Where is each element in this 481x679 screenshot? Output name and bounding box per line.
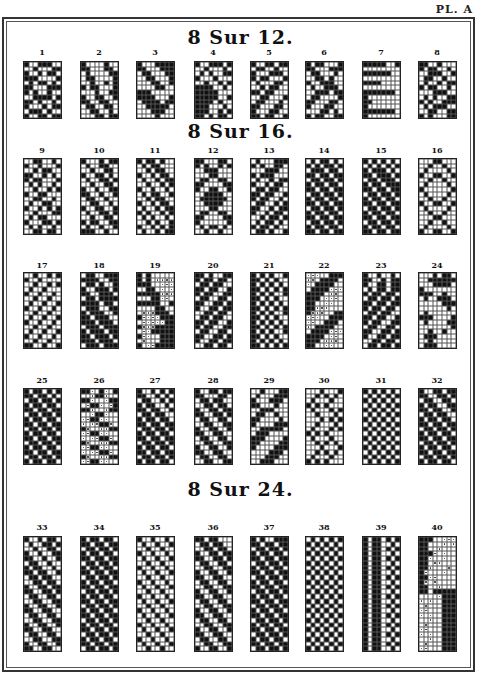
pattern-cell	[395, 343, 400, 348]
pattern-number: 9	[22, 145, 62, 155]
pattern-number: 8	[417, 47, 457, 57]
pattern-cell	[169, 343, 174, 348]
weave-pattern-grid	[418, 536, 457, 652]
weave-pattern-grid	[250, 536, 289, 652]
weave-pattern-grid	[80, 158, 119, 235]
weave-pattern-grid	[23, 158, 62, 235]
pattern-cell	[169, 229, 174, 234]
pattern-cell	[451, 646, 456, 651]
weave-pattern-grid	[194, 158, 233, 235]
pattern-cell	[395, 459, 400, 464]
pattern-number: 40	[417, 522, 457, 532]
weave-pattern-grid	[136, 61, 175, 119]
pattern-number: 7	[361, 47, 401, 57]
pattern-cell	[56, 114, 61, 119]
pattern-number: 31	[361, 375, 401, 385]
weave-pattern-grid	[305, 388, 344, 465]
inner-frame	[6, 21, 471, 668]
pattern-cell	[395, 646, 400, 651]
pattern-cell	[227, 646, 232, 651]
pattern-cell	[56, 343, 61, 348]
pattern-number: 38	[304, 522, 344, 532]
weave-pattern-grid	[362, 158, 401, 235]
pattern-number: 5	[249, 47, 289, 57]
pattern-number: 26	[79, 375, 119, 385]
pattern-cell	[169, 459, 174, 464]
pattern-number: 22	[304, 260, 344, 270]
weave-pattern-grid	[418, 272, 457, 349]
weave-pattern-grid	[80, 388, 119, 465]
weave-pattern-grid	[194, 272, 233, 349]
pattern-number: 35	[135, 522, 175, 532]
pattern-number: 11	[135, 145, 175, 155]
weave-pattern-grid	[305, 158, 344, 235]
pattern-cell	[283, 114, 288, 119]
weave-pattern-grid	[305, 61, 344, 119]
pattern-cell	[451, 229, 456, 234]
pattern-number: 24	[417, 260, 457, 270]
pattern-cell	[227, 343, 232, 348]
weave-pattern-grid	[305, 536, 344, 652]
weave-pattern-grid	[250, 158, 289, 235]
pattern-number: 32	[417, 375, 457, 385]
pattern-number: 30	[304, 375, 344, 385]
weave-pattern-grid	[250, 272, 289, 349]
pattern-cell	[113, 459, 118, 464]
pattern-number: 18	[79, 260, 119, 270]
weave-pattern-grid	[80, 61, 119, 119]
pattern-cell	[451, 459, 456, 464]
pattern-number: 27	[135, 375, 175, 385]
pattern-number: 4	[193, 47, 233, 57]
pattern-cell	[338, 229, 343, 234]
pattern-cell	[451, 114, 456, 119]
pattern-number: 1	[22, 47, 62, 57]
pattern-cell	[283, 646, 288, 651]
pattern-cell	[338, 459, 343, 464]
pattern-cell	[56, 459, 61, 464]
weave-pattern-grid	[194, 61, 233, 119]
weave-pattern-grid	[23, 272, 62, 349]
weave-pattern-grid	[80, 272, 119, 349]
pattern-number: 15	[361, 145, 401, 155]
pattern-cell	[283, 343, 288, 348]
weave-pattern-grid	[23, 388, 62, 465]
weave-pattern-grid	[418, 388, 457, 465]
pattern-cell	[283, 229, 288, 234]
weave-pattern-grid	[250, 388, 289, 465]
pattern-cell	[338, 114, 343, 119]
pattern-cell	[451, 343, 456, 348]
section-title-8-sur-16: 8 Sur 16.	[0, 120, 481, 142]
pattern-cell	[395, 114, 400, 119]
pattern-number: 33	[22, 522, 62, 532]
weave-pattern-grid	[362, 272, 401, 349]
pattern-number: 16	[417, 145, 457, 155]
pattern-cell	[113, 229, 118, 234]
weave-pattern-grid	[23, 536, 62, 652]
pattern-number: 13	[249, 145, 289, 155]
pattern-cell	[227, 114, 232, 119]
pattern-number: 34	[79, 522, 119, 532]
weave-pattern-grid	[136, 388, 175, 465]
weave-pattern-grid	[362, 388, 401, 465]
pattern-number: 20	[193, 260, 233, 270]
weave-pattern-grid	[418, 158, 457, 235]
weave-pattern-grid	[194, 536, 233, 652]
weave-pattern-grid	[250, 61, 289, 119]
pattern-number: 14	[304, 145, 344, 155]
pattern-cell	[227, 229, 232, 234]
pattern-number: 37	[249, 522, 289, 532]
plate-label: PL. A	[436, 3, 473, 16]
pattern-number: 19	[135, 260, 175, 270]
pattern-cell	[113, 343, 118, 348]
section-title-8-sur-24: 8 Sur 24.	[0, 478, 481, 500]
pattern-number: 17	[22, 260, 62, 270]
pattern-number: 6	[304, 47, 344, 57]
pattern-cell	[113, 646, 118, 651]
pattern-cell	[227, 459, 232, 464]
section-title-8-sur-12: 8 Sur 12.	[0, 26, 481, 48]
weave-pattern-grid	[362, 61, 401, 119]
weave-pattern-grid	[194, 388, 233, 465]
pattern-number: 39	[361, 522, 401, 532]
weave-pattern-grid	[80, 536, 119, 652]
pattern-cell	[113, 114, 118, 119]
